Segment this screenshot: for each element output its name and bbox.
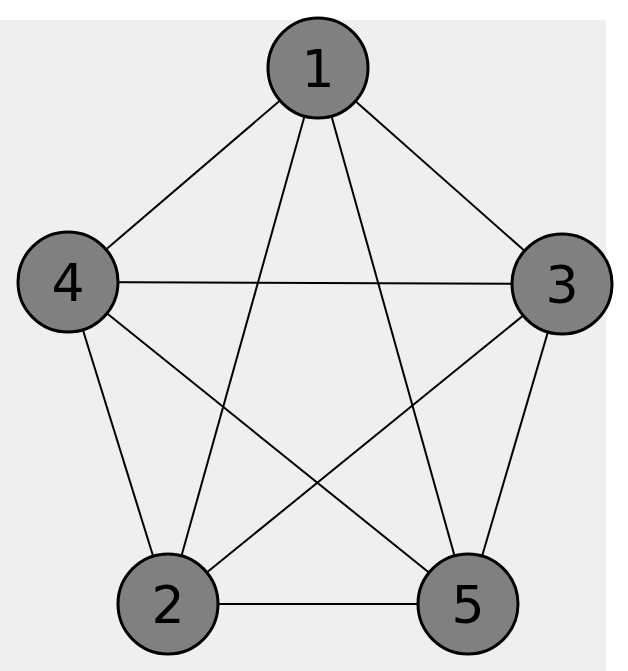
panel-background <box>0 20 606 671</box>
node-5: 5 <box>418 554 518 654</box>
node-3: 3 <box>512 234 612 334</box>
node-label: 1 <box>301 39 334 99</box>
graph-canvas: 12345 <box>0 0 628 671</box>
node-label: 5 <box>451 575 484 635</box>
node-label: 4 <box>51 253 84 313</box>
node-label: 3 <box>545 255 578 315</box>
node-1: 1 <box>268 18 368 118</box>
node-2: 2 <box>118 554 218 654</box>
node-label: 2 <box>151 575 184 635</box>
node-4: 4 <box>18 232 118 332</box>
